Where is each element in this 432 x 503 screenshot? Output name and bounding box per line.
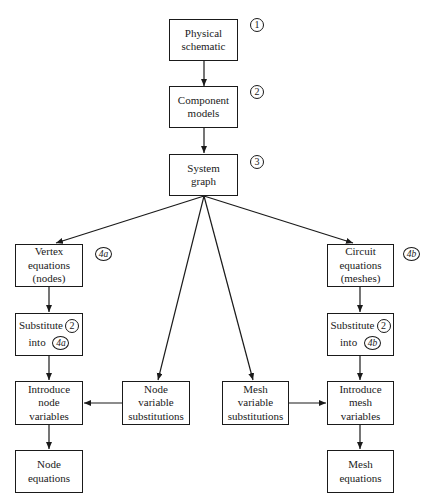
step-tag-4b: 4b [403, 247, 420, 261]
label: models [188, 107, 220, 121]
step-tag-4a: 4a [95, 247, 112, 261]
edge-system-circuit [204, 196, 353, 243]
ref-tag-4b: 4b [364, 336, 381, 350]
label: node [38, 396, 59, 410]
label: (nodes) [33, 272, 66, 286]
edge-system-vertex [56, 196, 204, 243]
node-system-graph: System graph [169, 154, 238, 196]
label: Node [144, 383, 168, 397]
node-introduce-node-variables: Introduce node variables [15, 381, 83, 425]
label: graph [191, 175, 216, 189]
label: schematic [182, 40, 226, 54]
label: equations [28, 259, 70, 273]
label: variables [29, 410, 69, 424]
node-node-equations: Node equations [15, 450, 83, 493]
step-tag-1: 1 [250, 18, 264, 32]
node-component-models: Component models [169, 86, 238, 128]
label: Vertex [35, 245, 64, 259]
label: Component [178, 94, 229, 108]
node-introduce-mesh-variables: Introduce mesh variables [327, 381, 394, 425]
label: Mesh [348, 458, 372, 472]
label: Introduce [28, 383, 70, 397]
step-tag-2: 2 [250, 85, 264, 99]
edge-system-node-subst [158, 196, 204, 380]
label: Physical [185, 27, 222, 41]
label: Substitute [19, 319, 63, 333]
label: variables [341, 410, 381, 424]
label: variable [238, 396, 273, 410]
label: (meshes) [341, 272, 381, 286]
label: into [29, 336, 46, 350]
ref-tag-4a: 4a [52, 336, 69, 350]
node-physical-schematic: Physical schematic [169, 19, 238, 61]
label: equations [339, 472, 381, 486]
label: Node [37, 458, 61, 472]
node-circuit-equations: Circuit equations (meshes) [327, 244, 394, 287]
ref-tag-2: 2 [65, 319, 79, 333]
node-substitute-right: Substitute2 into 4b [327, 313, 394, 356]
node-node-variable-substitutions: Node variable substitutions [122, 381, 190, 425]
label: Substitute [330, 319, 374, 333]
label: mesh [349, 396, 372, 410]
node-vertex-equations: Vertex equations (nodes) [15, 244, 83, 287]
label: Circuit [345, 245, 376, 259]
label: variable [138, 396, 173, 410]
label: into [340, 336, 357, 350]
node-substitute-left: Substitute2 into 4a [15, 313, 83, 356]
label: Introduce [339, 383, 381, 397]
label: substitutions [128, 410, 184, 424]
label: equations [28, 472, 70, 486]
node-mesh-equations: Mesh equations [327, 450, 394, 493]
label: substitutions [228, 410, 284, 424]
edge-system-mesh-subst [204, 196, 253, 380]
ref-tag-2: 2 [377, 319, 391, 333]
node-mesh-variable-substitutions: Mesh variable substitutions [222, 381, 289, 425]
label: equations [339, 259, 381, 273]
step-tag-3: 3 [250, 155, 264, 169]
label: Mesh [243, 383, 267, 397]
label: System [187, 162, 219, 176]
